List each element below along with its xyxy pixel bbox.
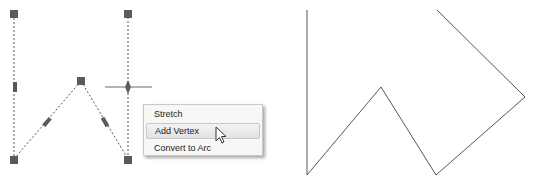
result-polyline[interactable] bbox=[307, 10, 525, 175]
vertex-grip[interactable] bbox=[77, 77, 85, 85]
drawing-canvas[interactable] bbox=[0, 0, 535, 185]
midpoint-grip[interactable] bbox=[13, 82, 17, 92]
menu-item-stretch[interactable]: Stretch bbox=[146, 106, 260, 122]
menu-item-convert-to-arc[interactable]: Convert to Arc bbox=[146, 140, 260, 156]
midpoint-grip[interactable] bbox=[42, 117, 51, 127]
vertex-grip[interactable] bbox=[10, 156, 18, 164]
midpoint-grip[interactable] bbox=[101, 117, 109, 128]
vertex-grip[interactable] bbox=[10, 10, 18, 18]
mouse-pointer-icon bbox=[215, 126, 229, 146]
vertex-grip[interactable] bbox=[124, 156, 132, 164]
vertex-grip[interactable] bbox=[124, 10, 132, 18]
context-menu: Stretch Add Vertex Convert to Arc bbox=[143, 104, 263, 156]
menu-item-add-vertex[interactable]: Add Vertex bbox=[146, 123, 260, 139]
